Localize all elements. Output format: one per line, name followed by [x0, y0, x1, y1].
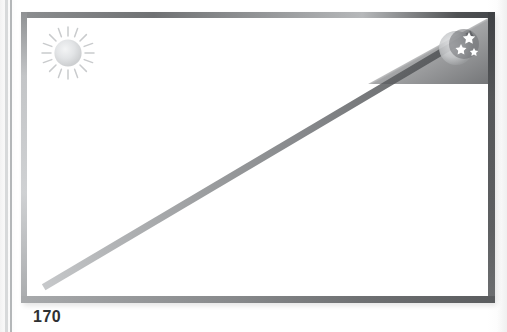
frame-bevel-right — [488, 12, 495, 303]
illustration-canvas — [27, 18, 488, 296]
illustration-frame — [21, 12, 495, 303]
page-edge-shadow — [497, 0, 507, 332]
page-gutter-line-inner — [10, 0, 12, 332]
page-number: 170 — [33, 308, 61, 326]
frame-bevel-bottom — [21, 296, 495, 303]
moon-stars-icon — [436, 22, 488, 74]
diagonal-sweep-line — [41, 31, 473, 290]
page-gutter-line-outer — [5, 0, 8, 332]
scanned-page: 170 — [0, 0, 507, 332]
sun-icon — [39, 24, 97, 82]
